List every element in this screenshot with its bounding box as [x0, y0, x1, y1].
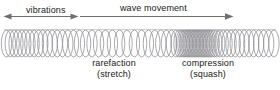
slinky-coil — [93, 30, 103, 57]
slinky-coil — [80, 30, 90, 57]
rarefaction-subtitle: (stretch) — [80, 69, 148, 80]
compression-subtitle: (squash) — [168, 69, 248, 80]
slinky-coil — [244, 30, 254, 57]
slinky-coil — [156, 30, 166, 57]
rarefaction-title: rarefaction — [80, 58, 148, 69]
slinky-coil — [74, 30, 84, 57]
slinky-coil — [87, 30, 97, 57]
slinky-coil — [150, 30, 160, 57]
compression-title: compression — [168, 58, 248, 69]
longitudinal-wave-diagram: vibrations wave movement rarefaction (st… — [0, 0, 280, 90]
vibrations-label: vibrations — [26, 5, 66, 16]
slinky-coil — [136, 30, 146, 57]
slinky-coil — [212, 30, 222, 57]
wave-movement-arrow — [80, 13, 234, 19]
wave-movement-label: wave movement — [120, 3, 187, 14]
rarefaction-label: rarefaction (stretch) — [80, 58, 148, 80]
slinky-coil — [68, 30, 78, 57]
slinky-coil — [143, 30, 153, 57]
compression-label: compression (squash) — [168, 58, 248, 80]
slinky-coils — [1, 30, 279, 57]
